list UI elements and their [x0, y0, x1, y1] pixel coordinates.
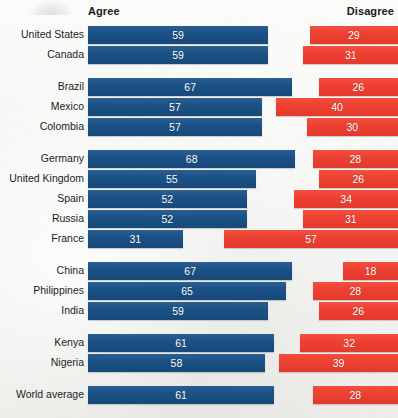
bar-value-agree: 59: [88, 29, 268, 41]
chart-row: Kenya6132: [0, 334, 398, 352]
chart-row: Nigeria5839: [0, 354, 398, 372]
bar-agree: 55: [88, 170, 256, 188]
row-label: United States: [21, 28, 84, 40]
bar-agree: 67: [88, 262, 292, 280]
bar-agree: 57: [88, 98, 262, 116]
bar-value-agree: 61: [88, 389, 274, 401]
bar-value-agree: 52: [88, 213, 247, 225]
bar-agree: 57: [88, 118, 262, 136]
bar-value-disagree: 28: [313, 153, 398, 165]
chart-row: Colombia5730: [0, 118, 398, 136]
bar-disagree: 26: [319, 170, 398, 188]
bar-value-agree: 67: [88, 265, 292, 277]
bar-value-disagree: 31: [303, 49, 398, 61]
bar-agree: 52: [88, 190, 247, 208]
bar-disagree: 57: [224, 230, 398, 248]
bar-value-disagree: 29: [310, 29, 398, 41]
chart-legend-header: Agree Disagree: [0, 4, 398, 22]
bar-disagree: 32: [300, 334, 398, 352]
bar-disagree: 28: [313, 386, 398, 404]
bar-value-agree: 57: [88, 121, 262, 133]
bar-value-agree: 59: [88, 49, 268, 61]
chart-container: Agree Disagree United States5929Canada59…: [0, 0, 398, 418]
bar-disagree: 34: [294, 190, 398, 208]
row-label: Colombia: [40, 120, 84, 132]
bar-disagree: 31: [303, 46, 398, 64]
bar-disagree: 28: [313, 282, 398, 300]
bar-value-agree: 58: [88, 357, 265, 369]
bar-value-disagree: 28: [313, 285, 398, 297]
bar-value-agree: 59: [88, 305, 268, 317]
row-label: United Kingdom: [9, 172, 84, 184]
bar-agree: 59: [88, 302, 268, 320]
chart-row: Philippines6528: [0, 282, 398, 300]
chart-row: China6718: [0, 262, 398, 280]
bar-value-disagree: 26: [319, 81, 398, 93]
bar-value-agree: 31: [88, 233, 183, 245]
bar-disagree: 28: [313, 150, 398, 168]
row-label: Brazil: [58, 80, 84, 92]
chart-row: Mexico5740: [0, 98, 398, 116]
row-label: France: [51, 232, 84, 244]
bar-value-disagree: 34: [294, 193, 398, 205]
row-label: Russia: [52, 212, 84, 224]
bar-agree: 68: [88, 150, 295, 168]
bar-value-disagree: 28: [313, 389, 398, 401]
bar-disagree: 30: [307, 118, 398, 136]
bar-agree: 58: [88, 354, 265, 372]
row-label: Germany: [41, 152, 84, 164]
row-label: Kenya: [54, 336, 84, 348]
row-label: India: [61, 304, 84, 316]
row-label: China: [57, 264, 84, 276]
bar-agree: 67: [88, 78, 292, 96]
row-label: Nigeria: [51, 356, 84, 368]
row-label: World average: [16, 388, 84, 400]
bar-value-disagree: 31: [303, 213, 398, 225]
bar-value-agree: 65: [88, 285, 286, 297]
chart-row: France3157: [0, 230, 398, 248]
bar-value-disagree: 57: [224, 233, 398, 245]
bar-value-disagree: 30: [307, 121, 398, 133]
bar-disagree: 40: [276, 98, 398, 116]
bar-agree: 31: [88, 230, 183, 248]
bar-value-agree: 57: [88, 101, 262, 113]
bar-value-disagree: 40: [276, 101, 398, 113]
bar-value-agree: 61: [88, 337, 274, 349]
chart-row: Russia5231: [0, 210, 398, 228]
chart-row: United States5929: [0, 26, 398, 44]
legend-label-agree: Agree: [88, 5, 120, 17]
bar-value-agree: 52: [88, 193, 247, 205]
bar-value-disagree: 18: [343, 265, 398, 277]
row-label: Mexico: [51, 100, 84, 112]
bar-disagree: 31: [303, 210, 398, 228]
bar-disagree: 29: [310, 26, 398, 44]
chart-row: Spain5234: [0, 190, 398, 208]
row-label: Spain: [57, 192, 84, 204]
legend-label-disagree: Disagree: [347, 5, 394, 17]
bar-disagree: 26: [319, 302, 398, 320]
bar-agree: 61: [88, 386, 274, 404]
bar-agree: 59: [88, 26, 268, 44]
chart-row: Germany6828: [0, 150, 398, 168]
chart-row: Brazil6726: [0, 78, 398, 96]
bar-value-disagree: 39: [279, 357, 398, 369]
row-label: Canada: [47, 48, 84, 60]
chart-row: United Kingdom5526: [0, 170, 398, 188]
bar-value-agree: 68: [88, 153, 295, 165]
bar-agree: 61: [88, 334, 274, 352]
bar-disagree: 39: [279, 354, 398, 372]
bar-value-disagree: 26: [319, 173, 398, 185]
bar-disagree: 26: [319, 78, 398, 96]
bar-value-disagree: 26: [319, 305, 398, 317]
bar-agree: 59: [88, 46, 268, 64]
row-label: Philippines: [33, 284, 84, 296]
bar-value-agree: 67: [88, 81, 292, 93]
chart-row: Canada5931: [0, 46, 398, 64]
bar-value-agree: 55: [88, 173, 256, 185]
bar-agree: 65: [88, 282, 286, 300]
bar-value-disagree: 32: [300, 337, 398, 349]
chart-row: India5926: [0, 302, 398, 320]
bar-agree: 52: [88, 210, 247, 228]
bar-disagree: 18: [343, 262, 398, 280]
chart-row: World average6128: [0, 386, 398, 404]
